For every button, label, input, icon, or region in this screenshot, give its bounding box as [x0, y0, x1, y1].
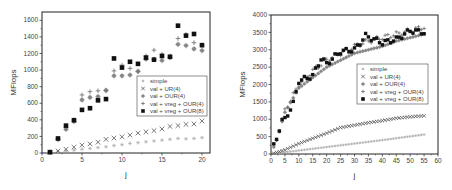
- star-marker: [120, 143, 124, 147]
- star-marker: [387, 138, 390, 141]
- star-marker: [336, 144, 339, 147]
- legend-label: val + OUR(4): [370, 81, 405, 87]
- star-marker: [96, 146, 100, 150]
- square-marker: [422, 32, 425, 35]
- x-tick-label: 10: [295, 157, 303, 164]
- square-marker: [128, 59, 133, 64]
- star-marker: [136, 141, 140, 145]
- star-marker: [342, 144, 345, 147]
- y-tick-label: 600: [27, 99, 38, 106]
- square-marker: [144, 55, 149, 60]
- y-axis-label: MFlops: [238, 71, 247, 97]
- star-marker: [381, 139, 384, 142]
- x-marker: [128, 133, 133, 138]
- star-marker: [370, 140, 373, 143]
- star-marker: [395, 137, 398, 140]
- circle-marker: [111, 73, 117, 79]
- star-marker: [384, 138, 387, 141]
- star-marker: [423, 133, 426, 136]
- plus-marker: [80, 93, 85, 98]
- square-marker: [88, 106, 93, 111]
- x-tick-label: 15: [158, 156, 166, 163]
- square-marker: [300, 78, 303, 81]
- y-tick-label: 800: [27, 83, 38, 90]
- square-marker: [417, 28, 420, 31]
- legend: simpleval + UR(4)val + OUR(4)val + vreg …: [357, 64, 428, 104]
- square-marker: [184, 33, 189, 38]
- square-marker: [272, 142, 275, 145]
- star-marker: [361, 141, 364, 144]
- plus-marker: [192, 40, 197, 45]
- x-marker: [176, 123, 181, 128]
- legend: simpleval + UR(4)val + OUR(4)val + vreg …: [137, 76, 207, 116]
- square-marker: [278, 129, 281, 132]
- square-marker: [381, 43, 384, 46]
- square-marker: [358, 43, 361, 46]
- plus-marker: [96, 88, 101, 93]
- chart-right: 0510152025303540455055600500100015002000…: [238, 11, 442, 180]
- x-tick-label: 35: [365, 157, 373, 164]
- legend-label: val + OUR(4): [150, 93, 185, 99]
- star-marker: [373, 140, 376, 143]
- star-marker: [323, 146, 326, 149]
- star-marker: [128, 142, 132, 146]
- star-marker: [389, 138, 392, 141]
- legend-label: val + vreg + OUR(8): [150, 108, 204, 114]
- star-marker: [104, 145, 108, 149]
- square-marker: [350, 50, 353, 53]
- square-marker: [72, 118, 77, 123]
- square-marker: [317, 64, 320, 67]
- square-marker: [331, 57, 334, 60]
- plus-marker: [383, 34, 386, 37]
- star-marker: [292, 150, 295, 153]
- y-tick-label: 4000: [253, 11, 268, 18]
- x-marker: [160, 127, 165, 132]
- square-marker: [411, 31, 414, 34]
- square-marker: [344, 47, 347, 50]
- x-tick-label: 45: [393, 157, 401, 164]
- square-marker: [361, 38, 364, 41]
- star-marker: [398, 137, 401, 140]
- circle-marker: [159, 58, 165, 64]
- star-marker: [353, 142, 356, 145]
- plus-marker: [88, 89, 93, 94]
- x-tick-label: 55: [420, 157, 428, 164]
- square-marker: [328, 62, 331, 65]
- x-tick-label: 60: [434, 157, 442, 164]
- legend-label: val + UR(4): [370, 74, 401, 80]
- circle-marker: [183, 43, 189, 49]
- square-marker: [275, 138, 278, 141]
- square-marker: [286, 114, 289, 117]
- star-marker: [420, 134, 423, 137]
- star-marker: [168, 137, 172, 141]
- square-marker: [120, 65, 125, 70]
- square-marker: [112, 56, 117, 61]
- star-marker: [80, 147, 84, 151]
- x-tick-label: 30: [351, 157, 359, 164]
- square-marker: [289, 108, 292, 111]
- star-marker: [152, 139, 156, 143]
- star-marker: [320, 146, 323, 149]
- y-tick-label: 500: [256, 133, 267, 140]
- square-marker: [200, 43, 205, 48]
- star-marker: [359, 142, 362, 145]
- circle-marker: [291, 96, 295, 100]
- square-marker: [192, 32, 197, 37]
- x-marker: [88, 142, 93, 147]
- x-tick-label: 20: [323, 157, 331, 164]
- star-marker: [417, 134, 420, 137]
- x-marker: [200, 119, 205, 124]
- star-marker: [348, 143, 351, 146]
- star-marker: [367, 140, 370, 143]
- circle-marker: [87, 95, 93, 101]
- star-marker: [406, 135, 409, 138]
- x-marker: [136, 131, 141, 136]
- star-marker: [403, 136, 406, 139]
- y-tick-label: 0: [263, 150, 267, 157]
- star-marker: [176, 137, 180, 141]
- plus-marker: [386, 33, 389, 36]
- y-tick-label: 400: [27, 116, 38, 123]
- x-tick-label: 40: [379, 157, 387, 164]
- star-marker: [300, 149, 303, 152]
- x-marker: [168, 124, 173, 129]
